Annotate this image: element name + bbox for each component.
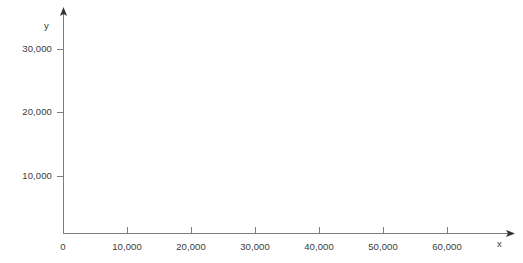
y-axis-ticks — [57, 50, 64, 177]
x-axis-ticks — [128, 227, 448, 234]
y-tick-label-20000: 20,000 — [8, 107, 52, 117]
x-tick-label-50000: 50,000 — [368, 242, 398, 252]
plot-area: 10,000 20,000 30,000 0 10,000 20,000 30,… — [0, 0, 523, 263]
x-tick-label-30000: 30,000 — [240, 242, 270, 252]
x-tick-label-20000: 20,000 — [176, 242, 206, 252]
axes-lines — [0, 0, 523, 263]
y-tick-label-30000: 30,000 — [8, 44, 52, 54]
x-tick-label-40000: 40,000 — [304, 242, 334, 252]
y-axis-label: y — [44, 21, 49, 31]
y-tick-label-10000: 10,000 — [8, 171, 52, 181]
chart-screenshot: 10,000 20,000 30,000 0 10,000 20,000 30,… — [0, 0, 523, 263]
x-axis-label: x — [497, 239, 502, 249]
x-tick-label-0: 0 — [60, 242, 65, 252]
x-tick-label-60000: 60,000 — [432, 242, 462, 252]
x-tick-label-10000: 10,000 — [112, 242, 142, 252]
